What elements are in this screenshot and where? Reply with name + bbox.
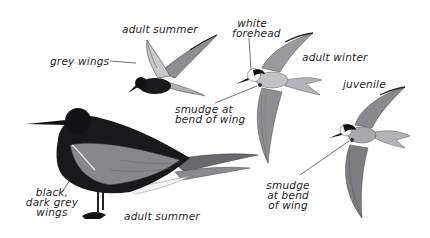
label-smudge-juvenile-line3: of wing (264, 200, 312, 210)
leader-smudge-winter (215, 86, 257, 103)
label-smudge-winter-line2: bend of wing (175, 114, 245, 124)
label-adult-summer-standing: adult summer (124, 211, 200, 221)
bird-juvenile (329, 87, 410, 218)
leader-white-forehead (249, 38, 251, 70)
label-black-dark-grey-wings: black, dark grey wings (24, 187, 80, 217)
label-adult-winter: adult winter (302, 52, 368, 62)
label-adult-summer-flying: adult summer (122, 24, 198, 34)
label-juvenile: juvenile (343, 79, 386, 89)
label-white-forehead: white forehead (232, 18, 272, 38)
label-grey-wings: grey wings (50, 56, 109, 66)
bird-adult-summer-flying (128, 35, 217, 96)
leader-smudge-juvenile (300, 141, 349, 175)
label-black-wings-line3: wings (24, 207, 80, 217)
label-smudge-winter: smudge at bend of wing (175, 104, 245, 124)
label-white-forehead-line2: forehead (232, 28, 272, 38)
leader-grey-wings (110, 61, 136, 63)
illustration-plate: adult summer grey wings white forehead a… (0, 0, 430, 238)
label-smudge-juvenile: smudge at bend of wing (264, 180, 312, 210)
